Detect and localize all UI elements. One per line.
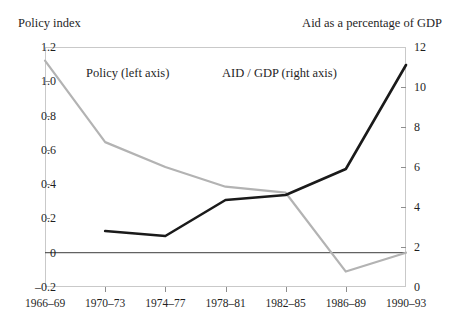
y-tick-label-right: 4 xyxy=(414,201,420,213)
x-tick-mark xyxy=(346,287,347,292)
x-tick-mark xyxy=(165,287,166,292)
series-line-policy xyxy=(45,61,406,272)
y-tick-mark-left xyxy=(45,184,50,185)
y-tick-label-left: 0 xyxy=(50,247,56,259)
y-tick-label-right: 6 xyxy=(414,161,420,173)
y-tick-mark-left xyxy=(45,81,50,82)
x-tick-label: 1982–85 xyxy=(266,297,306,309)
x-tick-mark xyxy=(105,287,106,292)
left-axis-title: Policy index xyxy=(18,16,81,30)
x-tick-label: 1974–77 xyxy=(145,297,185,309)
chart-figure: Policy index Aid as a percentage of GDP … xyxy=(0,0,452,325)
series-label-policy: Policy (left axis) xyxy=(86,66,169,80)
x-tick-mark xyxy=(226,287,227,292)
x-tick-mark xyxy=(286,287,287,292)
y-tick-mark-right xyxy=(401,127,406,128)
y-tick-label-right: 8 xyxy=(414,121,420,133)
y-tick-label-right: 12 xyxy=(414,41,426,53)
y-tick-mark-right xyxy=(401,207,406,208)
y-tick-label-right: 2 xyxy=(414,241,420,253)
right-axis-title: Aid as a percentage of GDP xyxy=(302,16,442,30)
x-tick-label: 1966–69 xyxy=(25,297,65,309)
y-tick-label-right: 10 xyxy=(414,81,426,93)
y-tick-label-left: 1.2 xyxy=(41,41,56,53)
x-tick-label: 1986–89 xyxy=(326,297,366,309)
y-tick-label-right: 0 xyxy=(414,281,420,293)
y-tick-mark-right xyxy=(401,87,406,88)
series-line-aid-gdp xyxy=(105,65,406,236)
series-label-aid-gdp: AID / GDP (right axis) xyxy=(222,66,337,80)
x-tick-label: 1990–93 xyxy=(386,297,426,309)
x-tick-label: 1970–73 xyxy=(85,297,125,309)
y-tick-mark-left xyxy=(45,218,50,219)
y-tick-label-left: –0.2 xyxy=(35,281,56,293)
y-tick-mark-left xyxy=(45,150,50,151)
y-tick-mark-right xyxy=(401,167,406,168)
plot-lines xyxy=(45,47,406,287)
y-tick-mark-left xyxy=(45,116,50,117)
x-tick-label: 1978–81 xyxy=(205,297,245,309)
y-tick-mark-right xyxy=(401,247,406,248)
